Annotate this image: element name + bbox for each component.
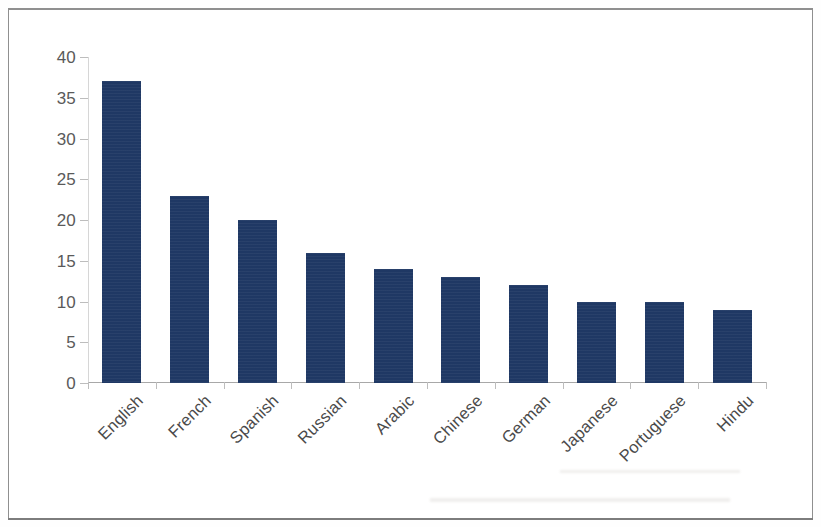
bar-texture [102, 81, 141, 383]
bar [441, 277, 480, 383]
x-axis-tick [698, 382, 699, 389]
y-axis-tick-label: 0 [36, 375, 76, 392]
x-axis-category-label: Russian [294, 391, 351, 448]
plot-area [88, 57, 766, 383]
y-axis-tick-label: 35 [36, 89, 76, 106]
bar [306, 253, 345, 383]
bar-texture [577, 302, 616, 384]
y-axis-tick [80, 302, 88, 303]
y-axis-tick-label: 40 [36, 49, 76, 66]
y-axis-tick [80, 179, 88, 180]
bar-texture [441, 277, 480, 383]
x-axis-tick [630, 382, 631, 389]
x-axis-tick [291, 382, 292, 389]
bar-texture [645, 302, 684, 384]
y-axis-tick-label: 10 [36, 293, 76, 310]
y-axis-tick [80, 261, 88, 262]
x-axis-tick [495, 382, 496, 389]
y-axis-tick [80, 98, 88, 99]
x-axis-tick [88, 382, 89, 389]
scan-smudge [430, 498, 730, 502]
bar-texture [170, 196, 209, 383]
bar-texture [509, 285, 548, 383]
x-axis-category-label: Japanese [557, 391, 622, 456]
y-axis-tick [80, 57, 88, 58]
x-axis-category-label: Portuguese [615, 391, 690, 466]
y-axis-tick [80, 220, 88, 221]
x-axis-tick [427, 382, 428, 389]
bar [170, 196, 209, 383]
y-axis-tick-label: 20 [36, 212, 76, 229]
bar-texture [306, 253, 345, 383]
bar [374, 269, 413, 383]
bar-texture [713, 310, 752, 383]
y-axis-tick [80, 383, 88, 384]
scanned-chart-page: 0510152025303540 EnglishFrenchSpanishRus… [0, 0, 821, 527]
y-axis-tick-label: 25 [36, 171, 76, 188]
x-axis-tick [766, 382, 767, 389]
x-axis-tick [156, 382, 157, 389]
bar-texture [374, 269, 413, 383]
x-axis-category-label: Spanish [226, 391, 283, 448]
x-axis-tick [359, 382, 360, 389]
bar [577, 302, 616, 384]
x-axis-category-label: Hindu [713, 391, 758, 436]
bar [238, 220, 277, 383]
bar-texture [238, 220, 277, 383]
y-axis-tick-label: 5 [36, 334, 76, 351]
x-axis-tick [563, 382, 564, 389]
x-axis-category-label: French [165, 391, 216, 442]
y-axis-tick [80, 139, 88, 140]
x-axis-category-label: English [95, 391, 148, 444]
x-axis-tick [224, 382, 225, 389]
y-axis-tick [80, 342, 88, 343]
x-axis-category-label: Chinese [429, 391, 486, 448]
y-axis-tick-label: 30 [36, 130, 76, 147]
scan-smudge [560, 470, 740, 473]
bar [102, 81, 141, 383]
x-axis-category-label: German [498, 391, 554, 447]
bar [509, 285, 548, 383]
y-axis-tick-label: 15 [36, 252, 76, 269]
bar [713, 310, 752, 383]
bar [645, 302, 684, 384]
bar-chart: 0510152025303540 EnglishFrenchSpanishRus… [0, 0, 821, 527]
x-axis-category-label: Arabic [371, 391, 418, 438]
